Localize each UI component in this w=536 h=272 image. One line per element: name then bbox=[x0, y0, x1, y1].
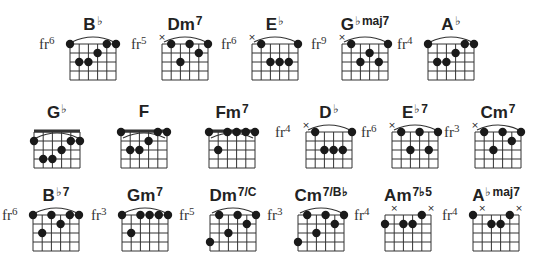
finger-dot bbox=[242, 128, 250, 136]
finger-dot bbox=[103, 40, 111, 48]
finger-dot bbox=[38, 229, 46, 237]
fret-position-label: fr3 bbox=[267, 205, 283, 224]
fretboard-grid: × bbox=[336, 30, 394, 88]
fret-position-label: fr4 bbox=[397, 34, 413, 53]
finger-dot bbox=[84, 58, 92, 66]
finger-dot bbox=[425, 146, 433, 154]
finger-dot bbox=[433, 58, 441, 66]
fret-position-label: fr4 bbox=[354, 205, 370, 224]
fretboard-grid: ×× bbox=[379, 201, 437, 259]
fretboard-grid: × bbox=[156, 30, 214, 88]
mute-x-icon: × bbox=[390, 203, 398, 213]
finger-dot bbox=[434, 128, 442, 136]
finger-dot bbox=[136, 211, 144, 219]
flat-symbol: ♭ bbox=[485, 185, 491, 199]
fretboard-grid: ×× bbox=[467, 201, 525, 259]
finger-dot bbox=[365, 49, 373, 57]
finger-dot bbox=[195, 49, 203, 57]
finger-dot bbox=[185, 40, 193, 48]
finger-dot bbox=[30, 137, 38, 145]
finger-dot bbox=[75, 211, 83, 219]
finger-dot bbox=[75, 58, 83, 66]
mute-x-icon: × bbox=[338, 32, 346, 42]
finger-dot bbox=[144, 137, 152, 145]
finger-dot bbox=[498, 128, 506, 136]
fret-position-label: fr6 bbox=[39, 34, 55, 53]
finger-dot bbox=[469, 211, 477, 219]
finger-dot bbox=[294, 238, 302, 246]
finger-dot bbox=[224, 229, 232, 237]
finger-dot bbox=[312, 229, 320, 237]
fretboard-grid bbox=[27, 201, 85, 259]
finger-dot bbox=[233, 211, 241, 219]
finger-dot bbox=[126, 146, 134, 154]
fret-position-label: fr5 bbox=[179, 205, 195, 224]
finger-dot bbox=[164, 211, 172, 219]
flat-symbol: ♭ bbox=[455, 14, 461, 28]
mute-x-icon: × bbox=[158, 32, 166, 42]
fret-position-label: fr3 bbox=[91, 205, 107, 224]
finger-dot bbox=[331, 220, 339, 228]
finger-dot bbox=[48, 155, 56, 163]
finger-dot bbox=[66, 40, 74, 48]
finger-dot bbox=[397, 128, 405, 136]
finger-dot bbox=[39, 155, 47, 163]
fretboard-grid bbox=[203, 118, 261, 176]
fretboard-grid bbox=[28, 118, 86, 176]
finger-dot bbox=[117, 128, 125, 136]
finger-dot bbox=[294, 40, 302, 48]
finger-dot bbox=[176, 58, 184, 66]
finger-dot bbox=[451, 49, 459, 57]
fretboard-grid bbox=[64, 30, 122, 88]
fretboard-grid bbox=[204, 201, 262, 259]
flat-symbol: ♭ bbox=[97, 14, 103, 28]
finger-dot bbox=[487, 220, 495, 228]
finger-dot bbox=[145, 211, 153, 219]
finger-dot bbox=[384, 40, 392, 48]
fret-position-label: fr3 bbox=[444, 122, 460, 141]
finger-dot bbox=[206, 238, 214, 246]
finger-dot bbox=[223, 128, 231, 136]
finger-dot bbox=[215, 211, 223, 219]
finger-dot bbox=[517, 128, 525, 136]
finger-dot bbox=[135, 146, 143, 154]
fretboard-grid: × bbox=[386, 118, 444, 176]
finger-dot bbox=[154, 128, 162, 136]
finger-dot bbox=[127, 229, 135, 237]
finger-dot bbox=[424, 40, 432, 48]
fretboard-grid: × bbox=[300, 118, 358, 176]
fret-position-label: fr9 bbox=[311, 34, 327, 53]
finger-dot bbox=[275, 58, 283, 66]
finger-dot bbox=[375, 58, 383, 66]
finger-dot bbox=[320, 146, 328, 154]
finger-dot bbox=[480, 128, 488, 136]
fretboard-grid bbox=[292, 201, 350, 259]
fret-position-label: fr6 bbox=[361, 122, 377, 141]
finger-dot bbox=[112, 40, 120, 48]
finger-dot bbox=[418, 211, 426, 219]
finger-dot bbox=[496, 220, 504, 228]
flat-symbol: ♭ bbox=[61, 102, 67, 116]
finger-dot bbox=[461, 40, 469, 48]
finger-dot bbox=[381, 220, 389, 228]
finger-dot bbox=[205, 128, 213, 136]
finger-dot bbox=[340, 211, 348, 219]
finger-dot bbox=[311, 128, 319, 136]
finger-dot bbox=[93, 49, 101, 57]
finger-dot bbox=[47, 211, 55, 219]
fret-position-label: fr5 bbox=[131, 34, 147, 53]
finger-dot bbox=[167, 40, 175, 48]
finger-dot bbox=[56, 220, 64, 228]
finger-dot bbox=[508, 137, 516, 145]
finger-dot bbox=[67, 137, 75, 145]
finger-dot bbox=[321, 211, 329, 219]
finger-dot bbox=[118, 211, 126, 219]
finger-dot bbox=[442, 58, 450, 66]
finger-dot bbox=[243, 220, 251, 228]
finger-dot bbox=[257, 40, 265, 48]
finger-dot bbox=[470, 40, 478, 48]
finger-dot bbox=[406, 146, 414, 154]
fret-position-label: fr4 bbox=[275, 122, 291, 141]
fret-position-label: fr4 bbox=[442, 205, 458, 224]
finger-dot bbox=[339, 146, 347, 154]
